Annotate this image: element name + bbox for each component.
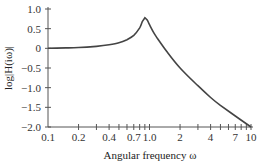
x-tick-label: 0.2 (72, 131, 86, 143)
x-tick-label: 0.4 (102, 131, 116, 143)
x-tick-label: 10 (246, 131, 258, 143)
x-tick-label: 2 (177, 131, 183, 143)
y-tick-label: 1.0 (27, 3, 41, 15)
y-tick-label: 0 (36, 42, 42, 54)
x-tick-label: 4 (208, 131, 214, 143)
bode-magnitude-chart: 1.00.50−0.5−1.0−1.5−2.00.10.20.40.71.024… (0, 0, 259, 165)
y-tick-label: 0.5 (27, 23, 41, 35)
y-tick-label: −1.5 (21, 101, 41, 113)
ticks: 1.00.50−0.5−1.0−1.5−2.00.10.20.40.71.024… (21, 3, 257, 143)
x-axis-label: Angular frequency ω (104, 149, 197, 161)
y-tick-label: −2.0 (21, 121, 41, 133)
x-tick-label: 7 (233, 131, 239, 143)
x-tick-label: 0.1 (41, 131, 55, 143)
y-axis-label: log|H(iω)| (2, 46, 15, 90)
x-tick-label: 0.7 (127, 131, 141, 143)
y-tick-label: −0.5 (21, 62, 41, 74)
y-tick-label: −1.0 (21, 82, 41, 94)
x-tick-label: 1.0 (143, 131, 157, 143)
magnitude-curve (48, 18, 251, 127)
